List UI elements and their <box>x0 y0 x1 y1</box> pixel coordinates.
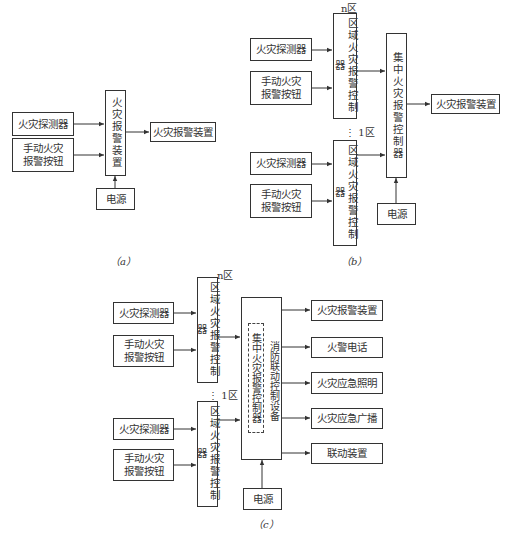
zone-1-manual-button-label: 手动火灾 报警按钮 <box>261 188 301 214</box>
output-linkage-device: 联动装置 <box>311 443 383 464</box>
zone-n-controller-label: 区域火灾报警控制器 <box>195 278 221 382</box>
caption-a: （a） <box>110 253 136 268</box>
linkage-control-label: 消防联动控制设备 <box>266 331 280 431</box>
fire-alarm-controller-label: 火灾报警装置 <box>109 97 122 169</box>
zone-1-manual-button-box: 手动火灾 报警按钮 <box>113 449 174 481</box>
zone-n-fire-detector-label: 火灾探测器 <box>119 307 169 320</box>
manual-alarm-button-label: 手动火灾 报警按钮 <box>23 142 63 168</box>
output-label: 联动装置 <box>327 447 367 460</box>
output-label: 火灾应急广播 <box>317 412 377 425</box>
zone-1-fire-detector-box: 火灾探测器 <box>250 152 312 175</box>
zone-1-manual-button-label: 手动火灾 报警按钮 <box>124 452 164 478</box>
output-label: 火灾应急照明 <box>317 377 377 390</box>
zone-1-label: ⋮ 1区 <box>208 387 238 402</box>
zone-1-label: ⋮ 1区 <box>345 124 375 139</box>
power-supply-box: 电源 <box>243 488 282 510</box>
output-emergency-broadcast: 火灾应急广播 <box>311 408 383 429</box>
central-controller-label: 集中火灾报警控制器 <box>250 333 263 423</box>
power-supply-box: 电源 <box>377 203 416 225</box>
central-controller-label: 集中火灾报警控制器 <box>390 52 403 160</box>
zone-1-controller-box: 区域火灾报警控制器 <box>333 140 357 246</box>
zone-1-fire-detector-label: 火灾探测器 <box>256 157 306 170</box>
output-label: 火灾报警装置 <box>317 304 377 317</box>
power-supply-label: 电源 <box>106 193 126 206</box>
caption-c: （c） <box>253 516 279 531</box>
central-controller-box: 集中火灾报警控制器 <box>386 33 407 178</box>
fire-alarm-controller-box: 火灾报警装置 <box>105 90 126 176</box>
power-supply-box: 电源 <box>96 188 135 210</box>
zone-n-controller-box: 区域火灾报警控制器 <box>333 13 357 119</box>
fire-detector-label: 火灾探测器 <box>18 118 68 131</box>
zone-n-manual-button-label: 手动火灾 报警按钮 <box>124 338 164 364</box>
fire-alarm-device-box: 火灾报警装置 <box>431 94 500 114</box>
zone-n-manual-button-box: 手动火灾 报警按钮 <box>113 335 174 367</box>
fire-alarm-device-label: 火灾报警装置 <box>153 126 213 139</box>
power-supply-label: 电源 <box>387 208 407 221</box>
output-fire-telephone: 火警电话 <box>311 337 383 358</box>
central-linkage-box: 集中火灾报警控制器 消防联动控制设备 <box>241 297 282 460</box>
zone-1-fire-detector-label: 火灾探测器 <box>119 423 169 436</box>
zone-1-manual-button-box: 手动火灾 报警按钮 <box>250 184 312 218</box>
power-supply-label: 电源 <box>253 493 273 506</box>
zone-n-manual-button-label: 手动火灾 报警按钮 <box>261 75 301 101</box>
fire-alarm-device-label: 火灾报警装置 <box>436 98 496 111</box>
central-controller-inner-box: 集中火灾报警控制器 <box>248 323 264 433</box>
zone-1-controller-label: 区域火灾报警控制器 <box>195 402 221 506</box>
output-fire-alarm-device: 火灾报警装置 <box>311 300 383 321</box>
zone-n-fire-detector-label: 火灾探测器 <box>256 43 306 56</box>
output-emergency-lighting: 火灾应急照明 <box>311 372 383 394</box>
zone-1-controller-label: 区域火灾报警控制器 <box>332 141 358 245</box>
fire-alarm-device-box: 火灾报警装置 <box>150 122 216 142</box>
zone-n-controller-label: 区域火灾报警控制器 <box>332 14 358 118</box>
output-label: 火警电话 <box>327 341 367 354</box>
fire-detector-box: 火灾探测器 <box>12 112 74 136</box>
zone-1-controller-box: 区域火灾报警控制器 <box>197 401 218 507</box>
zone-n-controller-box: 区域火灾报警控制器 <box>197 277 218 383</box>
zone-1-fire-detector-box: 火灾探测器 <box>113 418 174 440</box>
zone-n-fire-detector-box: 火灾探测器 <box>113 302 174 324</box>
zone-n-manual-button-box: 手动火灾 报警按钮 <box>250 71 312 105</box>
manual-alarm-button-box: 手动火灾 报警按钮 <box>12 138 74 172</box>
zone-n-fire-detector-box: 火灾探测器 <box>250 38 312 61</box>
caption-b: （b） <box>341 253 367 268</box>
